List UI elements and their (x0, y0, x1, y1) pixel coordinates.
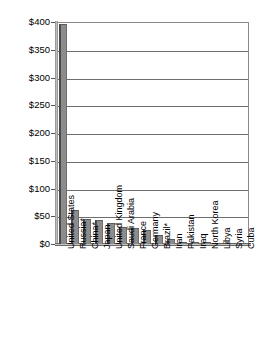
y-axis-tick-labels: $400 $350 $300 $250 $200 $150 $100 $50 $… (0, 0, 50, 349)
x-axis-tick-label: North Korea (211, 200, 220, 249)
bar-series (57, 22, 249, 244)
y-axis-tick-label: $50 (0, 211, 50, 221)
y-axis-tick-label: $300 (0, 73, 50, 83)
y-axis-tick-label: $200 (0, 128, 50, 138)
x-axis-tick-label: Russia* (79, 218, 88, 249)
y-axis-tick-label: $250 (0, 100, 50, 110)
x-axis-tick-label: United Kingdom (115, 185, 124, 249)
bar-chart: $400 $350 $300 $250 $200 $150 $100 $50 $… (0, 0, 260, 349)
y-axis-tick-label: $400 (0, 17, 50, 27)
x-axis-tick-labels: United States Russia* China* Japan Unite… (57, 246, 249, 349)
y-axis-tick-label: $150 (0, 156, 50, 166)
x-axis-tick-label: Pakistan (187, 214, 196, 249)
x-axis-tick-label: Cuba (247, 227, 256, 249)
x-axis-tick-label: United States (67, 195, 76, 249)
y-axis-tick-label: $100 (0, 184, 50, 194)
y-axis-tick-label: $0 (0, 239, 50, 249)
x-axis-tick-label: France (139, 221, 148, 249)
x-axis-tick-label: Iran (175, 233, 184, 249)
x-axis-tick-label: Syria (235, 228, 244, 249)
x-axis-tick-label: Germany (151, 212, 160, 249)
x-axis-tick-label: Saudi Arabia (127, 198, 136, 249)
x-axis-tick-label: Iraq (199, 233, 208, 249)
x-axis-tick-label: Japan (103, 224, 112, 249)
x-axis-tick-label: Brazil* (163, 223, 172, 249)
x-axis-tick-label: Libya (223, 227, 232, 249)
x-axis-tick-label: China* (91, 222, 100, 249)
y-axis-tick-label: $350 (0, 45, 50, 55)
